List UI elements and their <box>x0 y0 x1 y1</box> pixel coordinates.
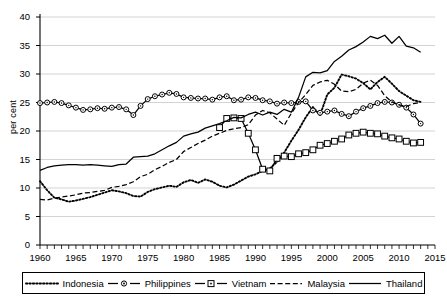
series-marker-dot <box>176 93 177 94</box>
series-marker-dot <box>240 99 241 100</box>
dotted-line-key <box>25 278 59 289</box>
x-axis-tick-label: 2015 <box>417 252 447 263</box>
y-axis-tick-label: 15 <box>8 154 30 165</box>
series-marker-dot <box>305 101 306 102</box>
y-axis-tick-label: 20 <box>8 125 30 136</box>
series-marker-dot <box>133 114 134 115</box>
series-marker-dot <box>161 94 162 95</box>
series-marker-vietnam <box>332 138 338 144</box>
y-axis-tick-label: 25 <box>8 97 30 108</box>
y-axis-tick-label: 5 <box>8 211 30 222</box>
series-marker-vietnam <box>253 147 259 153</box>
y-axis-tick-label: 0 <box>8 239 30 250</box>
dashed-line-key <box>269 278 303 289</box>
series-marker-dot <box>341 113 342 114</box>
x-axis-tick-label: 2000 <box>309 252 345 263</box>
series-marker-dot <box>384 101 385 102</box>
series-marker-dot <box>362 108 363 109</box>
x-axis-tick-label: 1985 <box>202 252 238 263</box>
series-marker-dot <box>90 109 91 110</box>
series-marker-dot <box>197 98 198 99</box>
series-marker-vietnam <box>418 140 424 146</box>
series-marker-dot <box>204 98 205 99</box>
series-marker-dot <box>68 105 69 106</box>
series-marker-dot <box>327 111 328 112</box>
legend-item-philippines[interactable]: Philippines <box>107 278 191 289</box>
series-line-indonesia <box>40 75 421 202</box>
legend-label: Malaysia <box>307 278 345 289</box>
series-marker-vietnam <box>411 140 417 146</box>
series-marker-vietnam <box>375 131 381 137</box>
series-marker-dot <box>75 107 76 108</box>
series-marker-vietnam <box>317 142 323 148</box>
x-axis-tick-label: 1960 <box>22 252 58 263</box>
series-marker-dot <box>291 102 292 103</box>
series-marker-dot <box>190 97 191 98</box>
series-marker-vietnam <box>217 125 223 131</box>
series-marker-dot <box>61 102 62 103</box>
series-marker-dot <box>147 98 148 99</box>
x-axis-tick-label: 1975 <box>130 252 166 263</box>
x-axis-tick-label: 1970 <box>94 252 130 263</box>
legend-label: Philippines <box>145 278 191 289</box>
series-marker-vietnam <box>353 130 359 136</box>
series-marker-vietnam <box>310 147 316 153</box>
y-axis-tick-label: 40 <box>8 11 30 22</box>
series-marker-dot <box>413 114 414 115</box>
series-marker-vietnam <box>367 130 373 136</box>
series-marker-dot <box>212 99 213 100</box>
legend-item-malaysia[interactable]: Malaysia <box>269 278 345 289</box>
series-marker-dot <box>140 105 141 106</box>
series-marker-vietnam <box>339 136 345 142</box>
square-marker-line-key <box>194 278 228 289</box>
circle-marker-line-key <box>107 278 141 289</box>
series-marker-dot <box>104 108 105 109</box>
series-marker-vietnam <box>296 151 302 157</box>
legend-item-indonesia[interactable]: Indonesia <box>25 278 104 289</box>
x-axis-tick-label: 2005 <box>345 252 381 263</box>
series-marker-dot <box>370 105 371 106</box>
x-axis-tick-label: 1995 <box>273 252 309 263</box>
series-marker-dot <box>118 106 119 107</box>
series-marker-vietnam <box>245 130 251 136</box>
legend-item-vietnam[interactable]: Vietnam <box>194 278 267 289</box>
series-marker-dot <box>355 111 356 112</box>
x-axis-tick-label: 1965 <box>58 252 94 263</box>
series-marker-dot <box>183 97 184 98</box>
series-marker-dot <box>226 96 227 97</box>
series-marker-vietnam <box>281 153 287 159</box>
series-marker-dot <box>125 109 126 110</box>
series-marker-dot <box>319 112 320 113</box>
series-marker-vietnam <box>403 138 409 144</box>
y-axis-tick-label: 35 <box>8 40 30 51</box>
series-marker-dot <box>283 102 284 103</box>
chart-figure: per cent IndonesiaPhilippinesVietnamMala… <box>0 0 447 301</box>
solid-line-key <box>348 278 382 289</box>
series-marker-vietnam <box>382 133 388 139</box>
y-axis-tick-label: 10 <box>8 182 30 193</box>
series-marker-vietnam <box>389 135 395 141</box>
series-marker-dot <box>262 100 263 101</box>
series-marker-vietnam <box>360 129 366 135</box>
chart-legend: IndonesiaPhilippinesVietnamMalaysiaThail… <box>22 272 425 294</box>
series-marker-vietnam <box>260 166 266 172</box>
series-marker-dot <box>406 107 407 108</box>
x-axis-tick-label: 1990 <box>237 252 273 263</box>
legend-label: Indonesia <box>63 278 104 289</box>
legend-label: Thailand <box>386 278 422 289</box>
series-marker-dot <box>248 97 249 98</box>
series-marker-vietnam <box>346 132 352 138</box>
series-marker-dot <box>39 102 40 103</box>
x-axis-tick-label: 2010 <box>381 252 417 263</box>
legend-item-thailand[interactable]: Thailand <box>348 278 422 289</box>
series-marker-dot <box>169 92 170 93</box>
series-marker-dot <box>233 100 234 101</box>
series-marker-dot <box>54 101 55 102</box>
series-marker-dot <box>276 103 277 104</box>
series-marker-dot <box>46 102 47 103</box>
series-marker-vietnam <box>303 150 309 156</box>
series-marker-vietnam <box>267 168 273 174</box>
series-marker-dot <box>312 110 313 111</box>
series-marker-dot <box>154 96 155 97</box>
series-marker-vietnam <box>288 154 294 160</box>
